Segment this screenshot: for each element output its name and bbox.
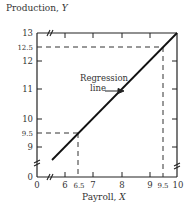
- svg-text:0: 0: [34, 180, 39, 190]
- svg-text:10: 10: [173, 180, 184, 190]
- regression-label-line2: line: [68, 83, 128, 93]
- svg-text:12: 12: [22, 56, 33, 66]
- regression-label-line1: Regression: [80, 73, 128, 83]
- svg-text:9.5: 9.5: [157, 182, 168, 190]
- svg-text:13: 13: [22, 28, 33, 38]
- x-axis-label: Payroll, X: [82, 192, 126, 202]
- svg-text:11: 11: [22, 84, 33, 94]
- svg-text:9: 9: [28, 142, 33, 152]
- svg-text:12.5: 12.5: [17, 44, 33, 52]
- regression-line: [52, 33, 177, 160]
- regression-chart: 13 12.5 12 11 10 9.5 9 0 0 6 6.5 7 8 9 9…: [0, 0, 193, 217]
- y-tick-labels: 13 12.5 12 11 10 9.5 9 0: [17, 28, 33, 182]
- x-tick-labels: 0 6 6.5 7 8 9 9.5 10: [34, 180, 183, 190]
- svg-text:10: 10: [22, 114, 33, 124]
- svg-text:6.5: 6.5: [73, 182, 84, 190]
- svg-text:9.5: 9.5: [22, 130, 33, 138]
- svg-text:8: 8: [119, 180, 124, 190]
- svg-text:6: 6: [62, 180, 67, 190]
- svg-text:9: 9: [147, 180, 152, 190]
- svg-text:7: 7: [90, 180, 95, 190]
- regression-annotation: Regression line: [80, 73, 128, 93]
- svg-text:0: 0: [28, 172, 33, 182]
